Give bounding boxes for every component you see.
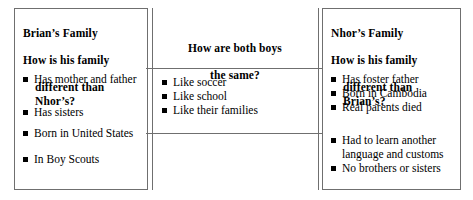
list-item: Like soccer: [162, 75, 312, 89]
right-item-4: Had to learn another: [342, 133, 457, 147]
right-panel-list: Has foster father Born in Cambodia Real …: [331, 72, 457, 175]
list-item: Real parents died: [331, 100, 457, 114]
left-header-line-2: How is his family: [23, 54, 145, 68]
middle-panel-divider-bottom: [146, 133, 324, 134]
middle-item-3: Like their families: [173, 103, 312, 117]
middle-panel-right-rule: [318, 8, 319, 190]
left-item-4: In Boy Scouts: [34, 152, 145, 166]
left-panel-list: Has mother and father Has sisters Born i…: [23, 72, 145, 166]
right-item-3: Real parents died: [342, 100, 457, 114]
middle-panel-list: Like soccer Like school Like their famil…: [162, 75, 312, 117]
list-item: Like school: [162, 89, 312, 103]
right-item-5: No brothers or sisters: [342, 161, 457, 175]
list-item: Born in Cambodia: [331, 86, 457, 100]
square-bullet-icon: [331, 77, 336, 82]
left-item-3: Born in United States: [34, 126, 145, 140]
middle-item-1: Like soccer: [173, 75, 312, 89]
right-item-1: Has foster father: [342, 72, 457, 86]
list-item: Has mother and father: [23, 72, 145, 86]
right-item-2: Born in Cambodia: [342, 86, 457, 100]
square-bullet-icon: [331, 91, 336, 96]
square-bullet-icon: [331, 138, 336, 143]
square-bullet-icon: [162, 94, 167, 99]
square-bullet-icon: [23, 131, 28, 136]
square-bullet-icon: [331, 166, 336, 171]
middle-panel-left-rule: [152, 8, 153, 190]
square-bullet-icon: [162, 80, 167, 85]
square-bullet-icon: [23, 157, 28, 162]
right-item-4-continuation: language and customs: [342, 147, 457, 161]
middle-item-2: Like school: [173, 89, 312, 103]
list-item: Has sisters: [23, 105, 145, 119]
left-header-line-1: Brian’s Family: [23, 27, 145, 41]
right-header-line-1: Nhor’s Family: [331, 27, 457, 41]
left-item-2: Has sisters: [34, 105, 145, 119]
list-item: Had to learn another language and custom…: [331, 133, 457, 161]
square-bullet-icon: [162, 108, 167, 113]
diagram-canvas: Brian’s Family How is his family differe…: [0, 0, 473, 200]
square-bullet-icon: [23, 110, 28, 115]
square-bullet-icon: [23, 77, 28, 82]
right-header-line-2: How is his family: [331, 54, 457, 68]
list-item: No brothers or sisters: [331, 161, 457, 175]
list-item: In Boy Scouts: [23, 152, 145, 166]
left-item-1: Has mother and father: [34, 72, 145, 86]
square-bullet-icon: [331, 105, 336, 110]
middle-header-line-1: How are both boys: [155, 42, 315, 56]
list-item: Like their families: [162, 103, 312, 117]
list-item: Born in United States: [23, 126, 145, 140]
list-item: Has foster father: [331, 72, 457, 86]
